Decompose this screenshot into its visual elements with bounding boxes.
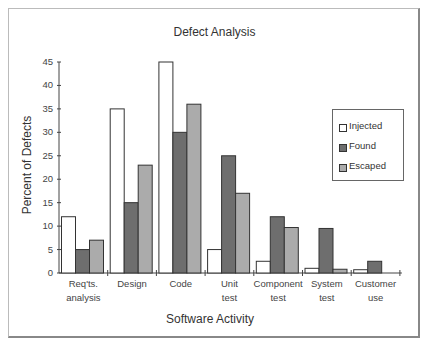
y-tick-label: 30 bbox=[31, 126, 53, 137]
legend-label-found: Found bbox=[349, 140, 376, 151]
legend-label-escaped: Escaped bbox=[349, 160, 386, 171]
y-tick-label: 5 bbox=[31, 244, 53, 255]
bar-escaped bbox=[333, 269, 347, 273]
bar-found bbox=[222, 156, 236, 273]
y-tick-label: 25 bbox=[31, 150, 53, 161]
x-category-label: Req'ts.analysis bbox=[58, 277, 108, 305]
x-category-label: Code bbox=[156, 277, 206, 291]
y-tick-label: 35 bbox=[31, 103, 53, 114]
bar-escaped bbox=[90, 240, 104, 273]
x-category-label: Customeruse bbox=[351, 277, 401, 305]
bar-injected bbox=[305, 268, 319, 273]
bar-found bbox=[124, 203, 138, 273]
bar-injected bbox=[354, 270, 368, 273]
bar-injected bbox=[208, 250, 222, 273]
y-axis-label: Percent of Defects bbox=[20, 110, 34, 220]
chart-legend: Injected Found Escaped bbox=[332, 109, 404, 181]
bar-escaped bbox=[138, 165, 152, 273]
x-category-label: Design bbox=[107, 277, 157, 291]
x-category-label: Componenttest bbox=[253, 277, 303, 305]
y-tick-label: 0 bbox=[31, 267, 53, 278]
bar-injected bbox=[256, 261, 270, 273]
bar-found bbox=[319, 228, 333, 273]
bar-injected bbox=[110, 109, 124, 273]
legend-swatch-escaped bbox=[339, 164, 347, 172]
x-category-label: Systemtest bbox=[302, 277, 352, 305]
bar-escaped bbox=[236, 193, 250, 273]
legend-swatch-injected bbox=[339, 124, 347, 132]
bar-injected bbox=[159, 62, 173, 273]
bar-found bbox=[76, 250, 90, 273]
y-tick-label: 45 bbox=[31, 56, 53, 67]
y-tick-label: 15 bbox=[31, 197, 53, 208]
y-tick-label: 20 bbox=[31, 173, 53, 184]
x-category-label: Unittest bbox=[204, 277, 254, 305]
bar-found bbox=[173, 132, 187, 273]
legend-swatch-found bbox=[339, 144, 347, 152]
legend-label-injected: Injected bbox=[349, 120, 382, 131]
bar-escaped bbox=[187, 104, 201, 273]
y-tick-label: 40 bbox=[31, 79, 53, 90]
x-axis-label: Software Activity bbox=[60, 312, 360, 326]
bar-found bbox=[368, 261, 382, 273]
bar-found bbox=[270, 217, 284, 273]
bar-escaped bbox=[284, 228, 298, 273]
bar-injected bbox=[62, 217, 76, 273]
y-tick-label: 10 bbox=[31, 220, 53, 231]
